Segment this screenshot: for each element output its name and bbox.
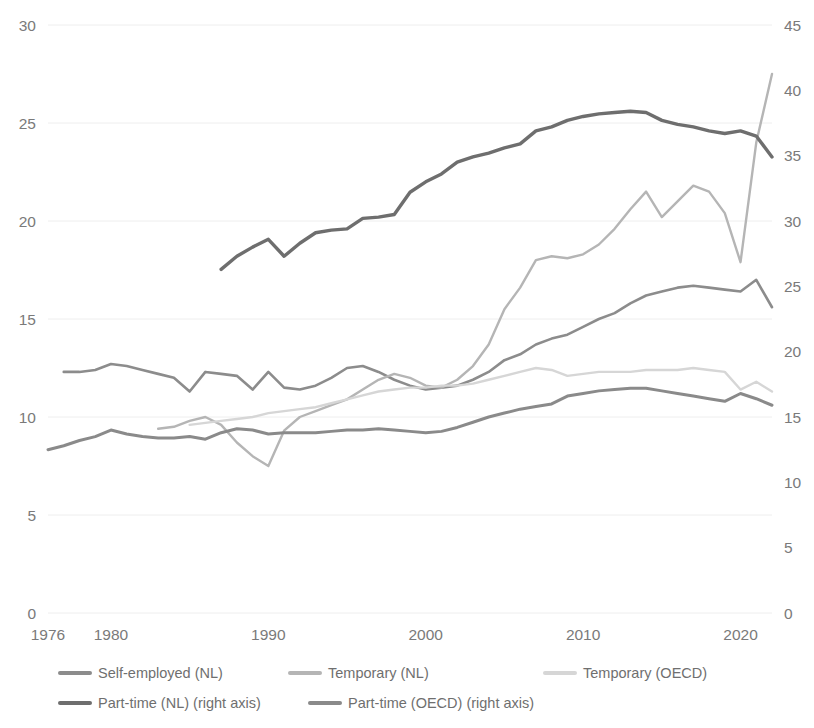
y-axis-tick-label: 0 (27, 605, 36, 622)
y2-axis-tick-label: 0 (784, 605, 793, 622)
y2-axis-tick-label: 5 (784, 539, 793, 556)
y2-axis-tick-label: 35 (784, 147, 801, 164)
x-axis-tick-label: 2010 (566, 626, 601, 643)
legend-label-temporary-oecd: Temporary (OECD) (583, 665, 707, 681)
legend-swatch-self-employed-nl (58, 671, 92, 675)
y-axis-tick-label: 10 (19, 409, 37, 426)
legend-label-self-employed-nl: Self-employed (NL) (98, 665, 223, 681)
legend-swatch-temporary-oecd (543, 671, 577, 675)
legend-label-part-time-nl: Part-time (NL) (right axis) (98, 695, 261, 711)
y-axis-tick-label: 20 (19, 213, 37, 230)
y-axis-tick-label: 15 (19, 311, 36, 328)
y2-axis-tick-label: 15 (784, 409, 801, 426)
x-axis-tick-label: 2000 (408, 626, 443, 643)
y2-axis-tick-label: 25 (784, 278, 801, 295)
series-line-part-time-oecd-right-axis (48, 388, 772, 449)
y2-axis-tick-label: 20 (784, 343, 802, 360)
y2-axis-tick-label: 40 (784, 82, 802, 99)
legend-item-part-time-nl[interactable]: Part-time (NL) (right axis) (58, 695, 308, 711)
x-axis-tick-label: 2020 (723, 626, 758, 643)
chart-legend: Self-employed (NL) Temporary (NL) Tempor… (0, 658, 814, 728)
y2-axis-tick-label: 45 (784, 17, 801, 34)
legend-item-part-time-oecd[interactable]: Part-time (OECD) (right axis) (308, 695, 588, 711)
line-chart: 0510152025300510152025303540451976198019… (0, 0, 814, 728)
series-line-temporary-nl (158, 74, 772, 466)
legend-row-2: Part-time (NL) (right axis) Part-time (O… (0, 688, 814, 718)
legend-item-temporary-nl[interactable]: Temporary (NL) (288, 665, 543, 681)
y-axis-tick-label: 5 (27, 507, 36, 524)
x-axis-tick-label: 1976 (31, 626, 65, 643)
legend-label-temporary-nl: Temporary (NL) (328, 665, 429, 681)
y2-axis-tick-label: 10 (784, 474, 802, 491)
legend-label-part-time-oecd: Part-time (OECD) (right axis) (348, 695, 534, 711)
legend-swatch-part-time-nl (58, 701, 92, 705)
legend-swatch-temporary-nl (288, 671, 322, 675)
legend-swatch-part-time-oecd (308, 701, 342, 705)
legend-row-1: Self-employed (NL) Temporary (NL) Tempor… (0, 658, 814, 688)
y-axis-tick-label: 30 (19, 17, 37, 34)
legend-item-temporary-oecd[interactable]: Temporary (OECD) (543, 665, 783, 681)
series-line-self-employed-nl (64, 280, 772, 392)
chart-container: 0510152025300510152025303540451976198019… (0, 0, 814, 728)
legend-item-self-employed-nl[interactable]: Self-employed (NL) (58, 665, 288, 681)
x-axis-tick-label: 1980 (94, 626, 129, 643)
x-axis-tick-label: 1990 (251, 626, 286, 643)
y2-axis-tick-label: 30 (784, 213, 802, 230)
y-axis-tick-label: 25 (19, 115, 36, 132)
